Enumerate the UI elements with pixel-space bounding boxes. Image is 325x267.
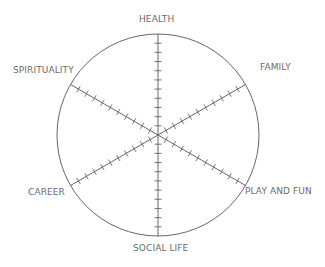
tick-mark xyxy=(124,114,128,120)
wheel-spokes xyxy=(71,34,246,236)
tick-mark xyxy=(109,104,113,110)
tick-mark xyxy=(180,118,184,124)
tick-mark xyxy=(196,109,200,115)
label-career: CAREER xyxy=(28,187,65,197)
tick-mark xyxy=(85,173,89,179)
label-health: HEALTH xyxy=(139,14,174,24)
label-play-and-fun: PLAY AND FUN xyxy=(245,186,312,196)
tick-mark xyxy=(124,150,128,156)
tick-mark xyxy=(109,160,113,166)
tick-mark xyxy=(228,173,232,179)
tick-mark xyxy=(204,104,208,110)
spoke-play-and-fun xyxy=(158,135,245,186)
tick-mark xyxy=(212,164,216,170)
tick-mark xyxy=(228,91,232,97)
tick-mark xyxy=(140,123,144,129)
tick-mark xyxy=(140,141,144,147)
spoke-family xyxy=(158,85,245,136)
tick-mark xyxy=(236,86,240,92)
tick-mark xyxy=(188,114,192,120)
tick-mark xyxy=(196,155,200,161)
label-spirituality: SPIRITUALITY xyxy=(13,65,74,75)
tick-mark xyxy=(212,100,216,106)
tick-mark xyxy=(148,137,152,143)
tick-mark xyxy=(188,150,192,156)
spoke-spirituality xyxy=(71,85,158,136)
tick-mark xyxy=(77,178,81,184)
spoke-career xyxy=(71,135,158,186)
tick-mark xyxy=(101,100,105,106)
tick-mark xyxy=(93,95,97,101)
tick-mark xyxy=(172,141,176,147)
tick-mark xyxy=(164,127,168,133)
tick-mark xyxy=(101,164,105,170)
tick-mark xyxy=(180,146,184,152)
tick-mark xyxy=(148,127,152,133)
tick-mark xyxy=(172,123,176,129)
tick-mark xyxy=(116,109,120,115)
tick-mark xyxy=(93,169,97,175)
tick-mark xyxy=(85,91,89,97)
tick-mark xyxy=(116,155,120,161)
tick-mark xyxy=(220,95,224,101)
tick-mark xyxy=(132,118,136,124)
label-family: FAMILY xyxy=(260,62,291,72)
tick-mark xyxy=(204,160,208,166)
tick-mark xyxy=(132,146,136,152)
tick-mark xyxy=(164,137,168,143)
life-wheel xyxy=(0,0,325,267)
tick-mark xyxy=(236,178,240,184)
label-social-life: SOCIAL LIFE xyxy=(133,243,188,253)
tick-mark xyxy=(220,169,224,175)
tick-mark xyxy=(77,86,81,92)
